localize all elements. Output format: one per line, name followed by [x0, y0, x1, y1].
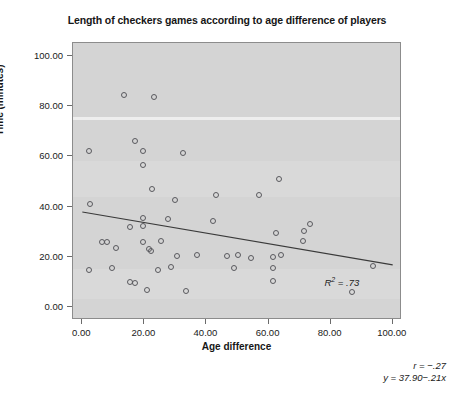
r-squared-annotation: R2 = .73 [324, 276, 359, 288]
y-tick-label: 60.00 [17, 150, 63, 161]
data-point [235, 252, 241, 258]
data-point [224, 253, 230, 259]
data-point [210, 218, 216, 224]
data-point [194, 252, 200, 258]
data-point [140, 162, 146, 168]
y-tick-label: 80.00 [17, 99, 63, 110]
data-point [165, 216, 171, 222]
statistics-annotation: r = −.27 y = 37.90−.21x [383, 360, 446, 384]
data-point [300, 238, 306, 244]
page-title: Length of checkers games according to ag… [0, 14, 454, 26]
y-tick-label: 0.00 [17, 301, 63, 312]
y-axis-title: Time (minutes) [0, 20, 5, 180]
y-tick-label: 20.00 [17, 251, 63, 262]
data-point [155, 267, 161, 273]
y-tick-label: 40.00 [17, 200, 63, 211]
scatter-plot-figure: Length of checkers games according to ag… [0, 0, 454, 397]
data-point [140, 215, 146, 221]
equation-text: y = 37.90−.21x [383, 372, 446, 384]
x-tick-label: 60.00 [238, 327, 298, 338]
plot-area: R2 = .73 [72, 42, 401, 319]
x-tick-label: 0.00 [51, 327, 111, 338]
x-tick-label: 100.00 [362, 327, 422, 338]
data-point [151, 94, 157, 100]
x-tick-mark [330, 319, 331, 324]
plot-surface: R2 = .73 [73, 43, 400, 318]
x-tick-label: 80.00 [300, 327, 360, 338]
data-point [86, 148, 92, 154]
data-point [174, 253, 180, 259]
correlation-text: r = −.27 [383, 360, 446, 372]
data-point [180, 150, 186, 156]
data-point [140, 239, 146, 245]
x-tick-mark [268, 319, 269, 324]
data-point [278, 252, 284, 258]
x-tick-label: 20.00 [113, 327, 173, 338]
data-point [370, 263, 376, 269]
x-tick-mark [205, 319, 206, 324]
data-point [168, 264, 174, 270]
x-axis-title: Age difference [72, 341, 401, 352]
r-squared-value: = .73 [335, 277, 359, 288]
data-point [121, 92, 127, 98]
data-point [148, 248, 154, 254]
x-tick-label: 40.00 [175, 327, 235, 338]
data-point [301, 228, 307, 234]
data-point [140, 223, 146, 229]
y-tick-label: 100.00 [17, 49, 63, 60]
x-tick-mark [143, 319, 144, 324]
x-tick-mark [392, 319, 393, 324]
data-point [86, 267, 92, 273]
x-tick-mark [81, 319, 82, 324]
